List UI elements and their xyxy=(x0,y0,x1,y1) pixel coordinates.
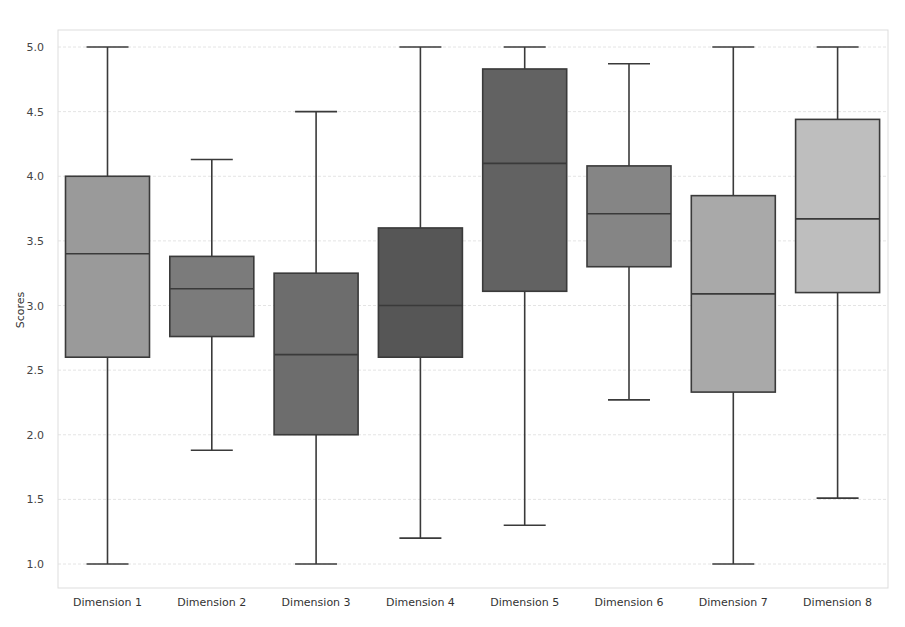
y-tick-label: 5.0 xyxy=(27,41,45,54)
x-tick-label: Dimension 4 xyxy=(386,596,455,609)
y-axis-label: Scores xyxy=(14,291,27,328)
box-plot-chart: 1.01.52.02.53.03.54.04.55.0 Scores Dimen… xyxy=(0,0,905,627)
y-tick-label: 1.0 xyxy=(27,558,45,571)
y-tick-label: 4.0 xyxy=(27,170,45,183)
box-1 xyxy=(66,47,150,564)
iqr-box xyxy=(66,176,150,357)
y-tick-label: 1.5 xyxy=(27,493,45,506)
x-tick-label: Dimension 2 xyxy=(177,596,246,609)
x-axis: Dimension 1Dimension 2Dimension 3Dimensi… xyxy=(73,596,872,609)
box-2 xyxy=(170,159,254,450)
y-tick-label: 2.5 xyxy=(27,364,45,377)
y-tick-label: 2.0 xyxy=(27,429,45,442)
iqr-box xyxy=(587,166,671,267)
x-tick-label: Dimension 6 xyxy=(595,596,664,609)
x-tick-label: Dimension 1 xyxy=(73,596,142,609)
y-tick-label: 3.0 xyxy=(27,300,45,313)
y-tick-label: 3.5 xyxy=(27,235,45,248)
y-tick-label: 4.5 xyxy=(27,106,45,119)
box-3 xyxy=(274,112,358,564)
box-8 xyxy=(796,47,880,498)
iqr-box xyxy=(483,69,567,291)
iqr-box xyxy=(170,256,254,336)
x-tick-label: Dimension 3 xyxy=(282,596,351,609)
x-tick-label: Dimension 8 xyxy=(803,596,872,609)
iqr-box xyxy=(378,228,462,357)
box-6 xyxy=(587,64,671,400)
boxes xyxy=(66,47,880,564)
box-4 xyxy=(378,47,462,538)
box-5 xyxy=(483,47,567,525)
x-tick-label: Dimension 5 xyxy=(490,596,559,609)
y-axis: 1.01.52.02.53.03.54.04.55.0 xyxy=(27,41,45,571)
box-7 xyxy=(691,47,775,564)
iqr-box xyxy=(796,119,880,292)
x-tick-label: Dimension 7 xyxy=(699,596,768,609)
